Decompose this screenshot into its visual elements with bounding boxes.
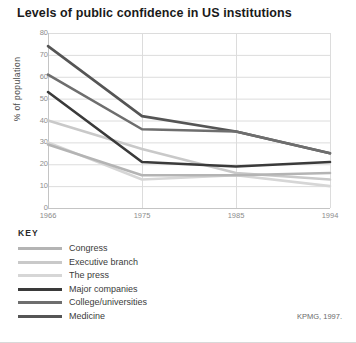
x-axis-ticks: 1966197519851994 — [0, 211, 356, 225]
legend-item-label: Congress — [69, 244, 108, 253]
x-axis-tick-label: 1985 — [228, 211, 245, 220]
legend-heading: KEY — [18, 228, 248, 238]
chart-page: Levels of public confidence in US instit… — [0, 0, 356, 343]
legend-item-label: Major companies — [69, 285, 138, 294]
legend-item: Executive branch — [18, 256, 248, 270]
legend-item-label: The press — [69, 271, 109, 280]
x-axis-tick-label: 1994 — [322, 211, 339, 220]
legend-color-swatch — [18, 315, 62, 318]
legend-item-label: College/universities — [69, 298, 147, 307]
line-chart-svg — [0, 0, 356, 229]
legend-item-label: Medicine — [69, 312, 105, 321]
x-axis-tick-label: 1975 — [134, 211, 151, 220]
legend-color-swatch — [18, 301, 62, 304]
legend-color-swatch — [18, 274, 62, 277]
x-axis-tick-label: 1966 — [40, 211, 57, 220]
source-attribution: KPMG, 1997. — [297, 312, 342, 321]
legend-color-swatch — [18, 261, 62, 264]
legend-item-label: Executive branch — [69, 258, 138, 267]
legend-color-swatch — [18, 247, 62, 250]
legend-rows: CongressExecutive branchThe pressMajor c… — [18, 242, 248, 323]
legend-item: Medicine — [18, 310, 248, 324]
legend: KEY CongressExecutive branchThe pressMaj… — [18, 228, 248, 323]
legend-item: Congress — [18, 242, 248, 256]
chart-plot-area: % of population 80706050403020100 196619… — [0, 0, 356, 225]
legend-color-swatch — [18, 288, 62, 291]
legend-item: College/universities — [18, 296, 248, 310]
legend-item: The press — [18, 269, 248, 283]
legend-item: Major companies — [18, 283, 248, 297]
